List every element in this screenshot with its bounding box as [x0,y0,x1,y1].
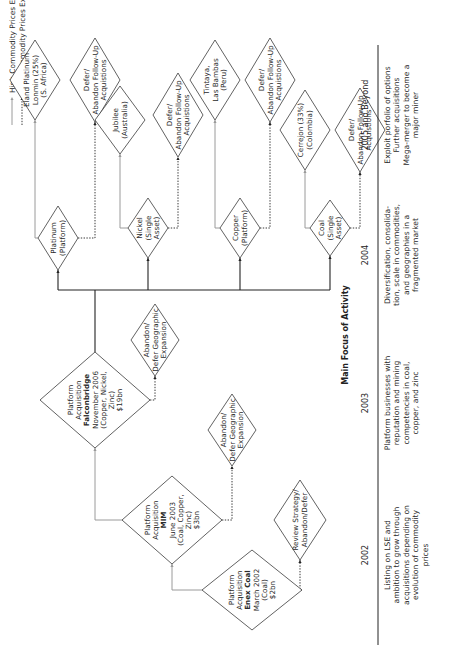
node-label-line: Expansion [236,411,245,448]
timeline-text-line: copper, and zinc [411,372,420,435]
decision-tree-diagram: High Commodity Prices Expected Low Commo… [0,0,458,655]
node-coal: Coal(SingleAsset) [310,200,350,256]
node-mim: PlatformAcquisitionMIMJune 2003(Coal, Co… [122,476,222,564]
timeline-text-line: Listing on LSE and [383,520,392,590]
timeline-text-line: and geographies in a [402,215,411,295]
legend-high-arrow-icon [11,97,14,100]
timeline-column-2004: 2004Diversification, consolida-tion, sca… [361,204,420,306]
node-label-line: (Peru) [219,69,228,91]
timeline-year: 2004 [361,245,370,265]
node-label-line: $3bn [192,511,201,529]
node-label-line: Expansion [159,321,168,358]
timeline-year: 2003 [361,393,370,413]
connector-platinum-low [78,122,95,238]
node-label-line: (S. Africa) [39,62,48,97]
connector-platinum-high [35,120,38,238]
connector-copper-low [260,122,270,228]
node-nickel: Nickel(SingleAsset) [128,198,168,258]
timeline-text-line: acquisitions depending on [402,505,411,605]
node-label-line: (Colombia) [305,110,314,150]
node-enex: PlatformAcquisitionEnex CoalMarch 2002(C… [202,550,302,630]
node-label-line: (Australia) [120,101,129,139]
timeline-text-line: Platform businesses with [383,355,392,450]
timeline-text-line: Mega-merger to become a [402,64,411,165]
connector-coal-low [350,172,360,228]
timeline-text-line: evolution of commodity [411,509,420,600]
connector-mim-abandon [222,466,232,520]
node-label-line: Acquistions [99,59,108,100]
timeline-text-line: tion, scale in commodities, [392,204,401,306]
node-abandon-falcon: Abandon/Defer GeographicExpansion [131,304,179,376]
nodes: PlatformAcquisitionEnex CoalMarch 2002(C… [10,38,385,630]
connector-nickel-low [168,157,178,228]
connector-falcon-abandon [150,376,155,400]
timeline-text-line: Exploit porfolio of options [383,66,392,163]
timeline-year: 2005 and Beyond [361,80,370,151]
node-review: Review Strategy/Abandon/Defer [274,480,326,560]
connector-coal-high [305,170,310,228]
connector-copper-high [215,120,220,228]
timeline-column-2002: 2002Listing on LSE andambition to grow t… [361,505,430,605]
node-copper: Copper(Platform) [220,198,260,258]
connector-enex-review [300,560,302,590]
node-label-line: Acquistions [274,59,283,100]
node-label-line: Abandon/Defer [300,493,309,547]
node-defer-copper: Defer/Abandon Follow-UpAcquistions [245,38,295,122]
diagram-stage: High Commodity Prices Expected Low Commo… [0,0,458,655]
node-cerrejon: Cerrejon (33%)(Colombia) [280,90,330,170]
timeline-text-line: competencies in coal, [402,362,411,445]
timeline-text-line: Further acquisitions [392,77,401,152]
timeline-title: Main Focus of Activity [341,284,350,384]
timeline-text-line: major miner [411,91,420,138]
node-label-line: Asset) [152,217,161,240]
node-abandon-mim: Abandon/Defer GeographicExpansion [208,394,256,466]
node-label-line: Acquistions [182,94,191,135]
node-label-line: $2bn [268,581,277,599]
node-label-line: $19bn [115,389,124,412]
timeline-text-line: Diversification, consolida- [383,206,392,304]
node-label-line: (Platform) [58,220,67,256]
connector-nickel-high [120,154,128,228]
node-falconbridge: PlatformAcquisitionFalconbridgeNovember … [40,352,150,448]
node-label-line: Asset) [334,217,343,240]
connector-mim-falcon [95,448,122,520]
node-platinum: Platinum(Platform) [38,206,78,270]
connector-enex-mim [172,564,202,590]
timeline-year: 2002 [361,545,370,565]
timeline-text-line: reputation and mining [392,361,401,446]
timeline-text-line: ambition to grow through [392,506,401,603]
timeline-text-line: fragmented market [411,218,420,292]
node-label-line: (Platform) [240,210,249,246]
timeline-text-line: prices [421,544,430,567]
timeline-column-2003: 2003Platform businesses withreputation a… [361,355,420,450]
